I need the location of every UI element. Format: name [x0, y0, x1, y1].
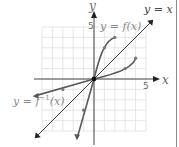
finv-label: y = f−1(x)	[13, 95, 65, 107]
f-point	[113, 36, 116, 39]
finv-label-suffix: (x)	[50, 95, 65, 108]
identity-label: y = x	[144, 4, 173, 15]
origin-point	[92, 77, 97, 82]
finv-point	[124, 67, 127, 70]
x-axis-arrow-icon	[153, 76, 160, 82]
y-tick-5: 5	[88, 22, 94, 31]
finv-label-sup: −1	[40, 94, 50, 102]
x-axis-label: x	[162, 74, 169, 86]
curves	[33, 20, 154, 141]
f-point	[82, 109, 85, 112]
f-point	[103, 46, 106, 49]
f-curve	[77, 37, 114, 137]
right-border	[176, 0, 177, 147]
finv-point	[61, 88, 64, 91]
f-arrow-icon	[74, 134, 80, 140]
y-axis-label: y	[89, 0, 96, 12]
finv-curve	[36, 58, 136, 95]
x-tick-5: 5	[143, 82, 149, 91]
f-label: y = f(x)	[100, 21, 141, 32]
finv-label-prefix: y = f	[13, 95, 40, 108]
finv-point	[134, 57, 137, 60]
